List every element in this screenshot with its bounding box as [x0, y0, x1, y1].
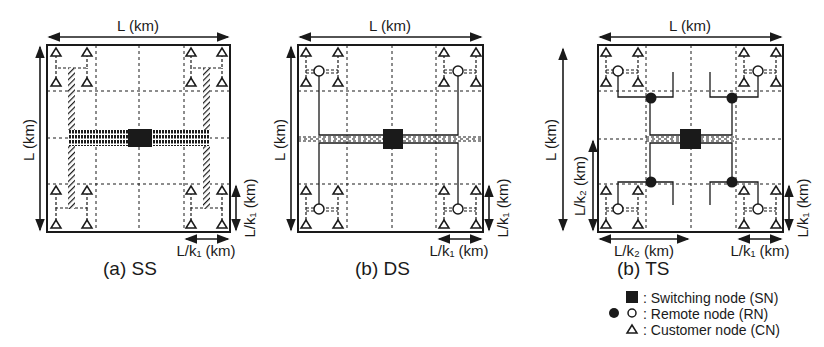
legend-item-customer-node: : Customer node (CN) [606, 322, 780, 338]
panel-ss: L (km) L (km) L/k₁ (km) L/k₁ (km) [20, 17, 258, 259]
right-label: L/k₁ (km) [494, 178, 511, 237]
right-label: L/k₁ (km) [794, 178, 811, 237]
filled-square-icon [606, 290, 640, 307]
legend-item-remote-node: : Remote node (RN) [606, 306, 780, 322]
left-label: L (km) [271, 119, 288, 161]
legend-label: : Customer node (CN) [643, 322, 780, 338]
caption-ds: (b) DS [355, 258, 410, 280]
top-label: L (km) [369, 17, 411, 34]
legend-item-switching-node: : Switching node (SN) [606, 290, 780, 306]
top-label: L (km) [117, 17, 159, 34]
left-label: L (km) [20, 119, 37, 161]
legend-label: : Switching node (SN) [643, 290, 778, 306]
left-inner-label: L/k₂ (km) [571, 156, 588, 216]
top-label: L (km) [669, 17, 711, 34]
filled-and-open-circle-icon [606, 306, 640, 323]
open-triangle-icon [606, 322, 640, 339]
caption-ts: (b) TS [617, 258, 669, 280]
left-label: L (km) [542, 119, 559, 161]
caption-ss: (a) SS [103, 258, 157, 280]
switching-node [383, 129, 403, 149]
legend-label: : Remote node (RN) [643, 306, 768, 322]
panel-ts: L (km) L (km) L/k₂ (km) L/k₁ (km) L/k₂ (… [542, 17, 811, 259]
bottom-right-label: L/k₁ (km) [176, 242, 235, 259]
right-label: L/k₁ (km) [241, 178, 258, 237]
bottom-right-label: L/k₁ (km) [730, 242, 789, 259]
legend: : Switching node (SN) : Remote node (RN)… [606, 290, 780, 338]
switching-node [680, 129, 701, 149]
bottom-right-label: L/k₁ (km) [429, 242, 488, 259]
panel-ds: L (km) L (km) L/k₁ (km) L/k₁ (km) [271, 17, 511, 259]
switching-node [128, 129, 152, 147]
bottom-left-label: L/k₂ (km) [614, 242, 674, 259]
